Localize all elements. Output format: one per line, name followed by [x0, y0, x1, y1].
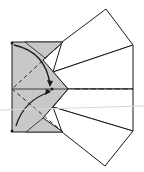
- origami-diagram: [0, 0, 144, 172]
- bottom-left-corner-dot: [11, 130, 14, 133]
- top-left-corner-dot: [11, 42, 14, 45]
- center-target-dot: [51, 88, 54, 91]
